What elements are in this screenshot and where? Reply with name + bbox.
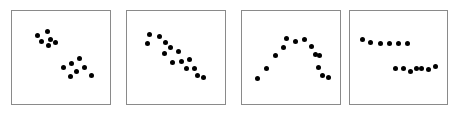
data-point [281,45,286,50]
data-point [61,65,66,70]
data-point [255,76,260,81]
data-point [201,75,206,80]
data-point [77,56,82,61]
data-point [316,65,321,70]
data-point [68,74,73,79]
data-point [157,34,162,39]
data-point [46,43,51,48]
data-point [176,49,181,54]
data-point [192,66,197,71]
scatter-panel-3 [241,10,341,105]
data-point [82,65,87,70]
data-point [162,51,167,56]
data-point [396,41,401,46]
data-point [273,53,278,58]
data-point [195,73,200,78]
data-point [433,64,438,69]
data-point [419,66,424,71]
data-point [378,41,383,46]
data-point [320,73,325,78]
data-point [293,39,298,44]
data-point [45,29,50,34]
data-point [387,41,392,46]
data-point [187,57,192,62]
data-point [393,66,398,71]
data-point [368,40,373,45]
data-point [145,41,150,46]
scatterplot-panel-strip [0,0,456,115]
data-point [35,33,40,38]
data-point [170,60,175,65]
plot-area-1 [12,11,110,104]
scatter-panel-4 [349,10,448,105]
data-point [69,61,74,66]
data-point [147,32,152,37]
data-point [302,37,307,42]
data-point [184,66,189,71]
data-point [264,66,269,71]
data-point [39,39,44,44]
plot-area-4 [350,11,447,104]
data-point [179,59,184,64]
data-point [317,53,322,58]
data-point [360,37,365,42]
data-point [53,40,58,45]
data-point [405,41,410,46]
data-point [401,66,406,71]
scatter-panel-1 [11,10,111,105]
data-point [408,69,413,74]
data-point [163,40,168,45]
data-point [426,67,431,72]
data-point [326,75,331,80]
data-point [168,45,173,50]
scatter-panel-2 [126,10,226,105]
data-point [89,73,94,78]
data-point [414,66,419,71]
data-point [284,36,289,41]
data-point [309,44,314,49]
plot-area-2 [127,11,225,104]
plot-area-3 [242,11,340,104]
data-point [74,69,79,74]
